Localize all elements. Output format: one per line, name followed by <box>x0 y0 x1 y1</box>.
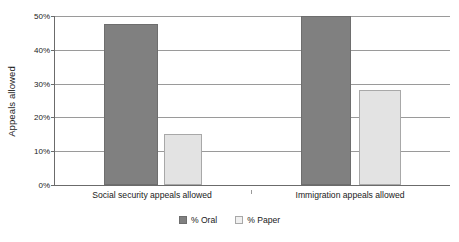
x-label-social-security: Social security appeals allowed <box>92 190 211 200</box>
y-tickmark-0 <box>51 185 55 186</box>
x-axis-group-divider <box>251 190 252 194</box>
y-axis-title: Appeals allowed <box>2 16 20 186</box>
plot-area <box>54 16 450 186</box>
legend-label-oral: % Oral <box>191 215 217 225</box>
bar-chart: Appeals allowed 50% 40% 30% 20% 10% 0% S… <box>0 0 459 242</box>
y-tickmark-20 <box>51 117 55 118</box>
y-tickmark-30 <box>51 84 55 85</box>
y-axis-title-label: Appeals allowed <box>6 66 17 137</box>
y-tick-label-30: 30% <box>34 79 50 88</box>
y-axis-tick-labels: 50% 40% 30% 20% 10% 0% <box>22 16 50 185</box>
y-tick-label-20: 20% <box>34 113 50 122</box>
y-tickmark-50 <box>51 16 55 17</box>
bar-oral-social-security[interactable] <box>104 24 158 185</box>
bar-paper-immigration[interactable] <box>359 90 401 185</box>
x-label-immigration: Immigration appeals allowed <box>296 190 405 200</box>
legend-label-paper: % Paper <box>247 215 280 225</box>
bar-oral-immigration[interactable] <box>301 16 351 185</box>
x-axis-category-labels: Social security appeals allowed Immigrat… <box>54 190 449 204</box>
legend-item-oral[interactable]: % Oral <box>179 215 217 225</box>
chart-legend: % Oral % Paper <box>0 215 459 225</box>
legend-item-paper[interactable]: % Paper <box>235 215 280 225</box>
y-tickmark-10 <box>51 151 55 152</box>
y-tick-label-0: 0% <box>38 181 50 190</box>
bar-paper-social-security[interactable] <box>164 134 202 185</box>
y-tick-label-40: 40% <box>34 45 50 54</box>
y-tick-label-10: 10% <box>34 147 50 156</box>
y-tickmark-40 <box>51 50 55 51</box>
legend-swatch-oral-icon <box>179 216 187 224</box>
y-tick-label-50: 50% <box>34 12 50 21</box>
gridline-50 <box>55 16 450 17</box>
legend-swatch-paper-icon <box>235 216 243 224</box>
